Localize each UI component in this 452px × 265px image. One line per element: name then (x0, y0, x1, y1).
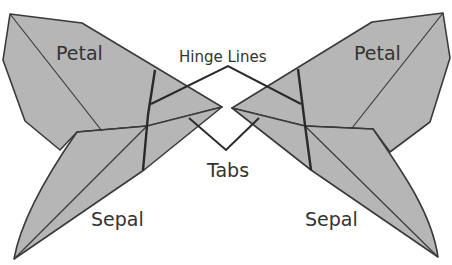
right-sepal-label: Sepal (305, 208, 358, 230)
tabs-label: Tabs (206, 159, 249, 181)
hinge-lines-label: Hinge Lines (179, 48, 267, 66)
left-petal-label: Petal (56, 42, 103, 64)
origami-flower-diagram: Petal Petal Sepal Sepal Hinge Lines Tabs (0, 0, 452, 265)
diagram-canvas: Petal Petal Sepal Sepal Hinge Lines Tabs (0, 0, 452, 265)
right-petal-label: Petal (354, 42, 401, 64)
left-sepal-label: Sepal (91, 208, 144, 230)
